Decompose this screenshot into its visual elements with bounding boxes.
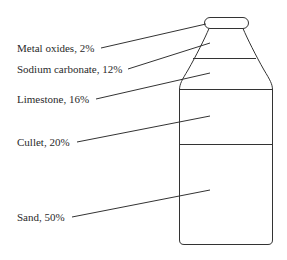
leader-sodium-carbonate bbox=[128, 43, 210, 69]
bottle-outline bbox=[180, 29, 273, 245]
label-metal-oxides: Metal oxides, 2% bbox=[17, 42, 94, 54]
bottle-composition-diagram: Metal oxides, 2% Sodium carbonate, 12% L… bbox=[0, 0, 287, 260]
label-sodium-carbonate: Sodium carbonate, 12% bbox=[17, 63, 122, 75]
label-cullet: Cullet, 20% bbox=[17, 136, 70, 148]
leader-sand bbox=[72, 190, 210, 217]
bottle-cap bbox=[205, 18, 249, 29]
leader-limestone bbox=[96, 73, 210, 99]
label-sand: Sand, 50% bbox=[17, 211, 65, 223]
label-limestone: Limestone, 16% bbox=[17, 93, 89, 105]
leader-cullet bbox=[77, 116, 210, 142]
leader-metal-oxides bbox=[101, 24, 206, 48]
